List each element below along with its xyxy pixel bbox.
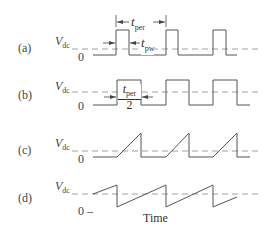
half-period-annotation: tper 2	[118, 84, 141, 111]
zero-label-b: 0	[78, 99, 84, 114]
waveform-d	[93, 185, 237, 207]
panel-label-b: (b)	[18, 88, 32, 103]
pulse-width-annotation: tpw	[141, 37, 154, 55]
waveform-a	[93, 30, 237, 55]
x-axis-label: Time	[143, 211, 168, 226]
vdc-label-c: Vdc	[55, 136, 70, 152]
waveform-c	[93, 133, 250, 157]
vdc-label-b: Vdc	[55, 79, 70, 95]
waveform-b	[93, 80, 250, 105]
panel-label-c: (c)	[18, 143, 31, 158]
panel-label-d: (d)	[18, 191, 32, 206]
vdc-label-d: Vdc	[55, 179, 70, 195]
zero-label-d: 0 –	[78, 204, 93, 219]
waveform-diagram	[0, 0, 276, 228]
panel-label-a: (a)	[18, 41, 31, 56]
zero-label-c: 0	[78, 152, 84, 167]
zero-label-a: 0	[78, 50, 84, 65]
period-annotation: tper	[131, 16, 145, 34]
vdc-label-a: Vdc	[55, 34, 70, 50]
